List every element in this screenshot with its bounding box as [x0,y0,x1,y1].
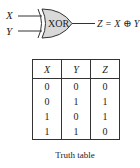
cell: 0 [33,94,62,109]
cell: 0 [91,79,120,95]
table-header-row: X Y Z [33,60,120,79]
cell: 1 [33,124,62,140]
header-y: Y [62,60,91,79]
cell: 1 [91,109,120,124]
cell: 0 [62,109,91,124]
cell: 0 [91,124,120,140]
truth-table: X Y Z 0 0 0 0 1 1 1 0 1 1 1 0 [32,59,120,140]
header-z: Z [91,60,120,79]
cell: 0 [33,79,62,95]
cell: 1 [62,124,91,140]
table-row: 0 1 1 [33,94,120,109]
cell: 1 [33,109,62,124]
table-row: 1 1 0 [33,124,120,140]
input-x-label: X [6,10,13,21]
output-expression: Z = X ⊕ Y [97,18,139,29]
table-row: 0 0 0 [33,79,120,95]
table-row: 1 0 1 [33,109,120,124]
cell: 1 [91,94,120,109]
table-caption: Truth table [0,150,140,160]
input-y-label: Y [6,26,12,37]
cell: 1 [62,94,91,109]
gate-label: XOR [48,18,69,29]
header-x: X [33,60,62,79]
cell: 0 [62,79,91,95]
